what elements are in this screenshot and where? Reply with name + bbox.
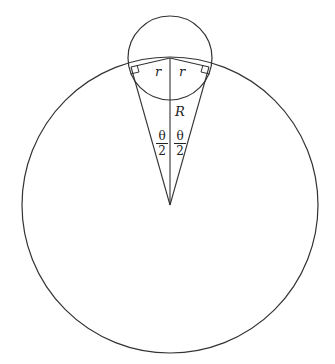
two-denominator: 2 [174,144,186,157]
label-theta-half-left: θ 2 [156,130,168,157]
theta-numerator: θ [156,130,168,144]
label-r-left: r [155,65,161,78]
two-denominator: 2 [156,144,168,157]
label-R: R [175,105,185,118]
label-r-right: r [179,65,185,78]
theta-numerator: θ [174,130,186,144]
label-theta-half-right: θ 2 [174,130,186,157]
geometry-diagram [0,0,335,364]
